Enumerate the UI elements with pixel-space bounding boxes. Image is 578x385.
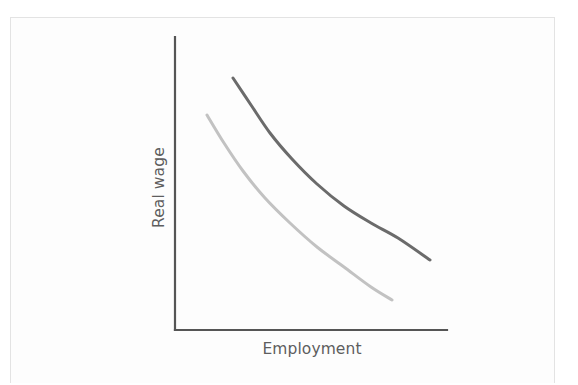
chart-svg <box>0 0 578 385</box>
screenshot-root: Employment Real wage <box>0 0 578 385</box>
x-axis-label: Employment <box>176 340 448 358</box>
chart-plot-area: Employment Real wage <box>0 0 578 385</box>
y-axis-label: Real wage <box>150 147 168 228</box>
labour-demand-curve-lower <box>207 115 392 300</box>
labour-demand-curve-upper <box>233 78 430 260</box>
